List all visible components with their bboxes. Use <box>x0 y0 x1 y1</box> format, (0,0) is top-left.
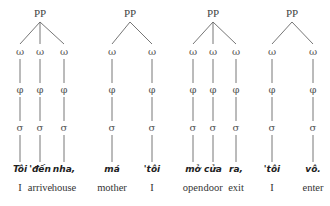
english-gloss: door <box>203 183 222 194</box>
phi-node: φ <box>309 85 316 95</box>
phi-node: φ <box>148 85 155 95</box>
pp-node: PP <box>124 8 136 19</box>
sigma-node: σ <box>149 123 156 133</box>
omega-node: ω <box>60 47 68 57</box>
omega-node: ω <box>209 47 217 57</box>
phi-node: φ <box>268 85 275 95</box>
omega-node: ω <box>268 47 276 57</box>
vietnamese-word: nha, <box>53 165 75 174</box>
tree-edge <box>272 22 292 44</box>
vietnamese-word: 'tôi <box>264 165 280 174</box>
omega-node: ω <box>232 47 240 57</box>
tree-edge <box>112 22 130 44</box>
english-gloss: house <box>52 183 77 194</box>
pp-node: PP <box>34 8 46 19</box>
tree-edge <box>213 22 236 44</box>
phi-node: φ <box>108 85 115 95</box>
vietnamese-word: Tôi <box>13 165 27 174</box>
omega-node: ω <box>189 47 197 57</box>
english-gloss: I <box>150 183 154 194</box>
tree-edge <box>20 22 40 44</box>
vietnamese-word: cửa <box>204 165 222 174</box>
vietnamese-word: mở <box>185 165 201 174</box>
english-gloss: open <box>183 183 203 194</box>
omega-node: ω <box>309 47 317 57</box>
tree-edge <box>193 22 213 44</box>
vietnamese-word: 'đến <box>29 165 51 174</box>
tree-edge <box>130 22 152 44</box>
phi-node: φ <box>60 85 67 95</box>
tree-edge <box>40 22 64 44</box>
english-gloss: mother <box>97 183 127 194</box>
vietnamese-word: vô. <box>305 165 320 174</box>
english-gloss: exit <box>228 183 244 194</box>
phi-node: φ <box>189 85 196 95</box>
phi-node: φ <box>36 85 43 95</box>
sigma-node: σ <box>61 123 68 133</box>
vietnamese-word: 'tôi <box>144 165 160 174</box>
english-gloss: enter <box>303 183 324 194</box>
phi-node: φ <box>16 85 23 95</box>
sigma-node: σ <box>233 123 240 133</box>
english-gloss: I <box>18 183 22 194</box>
english-gloss: I <box>270 183 274 194</box>
tree-edge <box>292 22 313 44</box>
phi-node: φ <box>232 85 239 95</box>
sigma-node: σ <box>210 123 217 133</box>
vietnamese-word: má <box>104 165 119 174</box>
sigma-node: σ <box>37 123 44 133</box>
sigma-node: σ <box>17 123 24 133</box>
sigma-node: σ <box>269 123 276 133</box>
sigma-node: σ <box>190 123 197 133</box>
omega-node: ω <box>148 47 156 57</box>
vietnamese-word: ra, <box>229 165 243 174</box>
english-gloss: arrive <box>28 183 52 194</box>
pp-node: PP <box>286 8 298 19</box>
sigma-node: σ <box>310 123 317 133</box>
pp-node: PP <box>207 8 219 19</box>
omega-node: ω <box>16 47 24 57</box>
sigma-node: σ <box>109 123 116 133</box>
omega-node: ω <box>108 47 116 57</box>
omega-node: ω <box>36 47 44 57</box>
phi-node: φ <box>209 85 216 95</box>
tree-edges <box>0 0 330 206</box>
